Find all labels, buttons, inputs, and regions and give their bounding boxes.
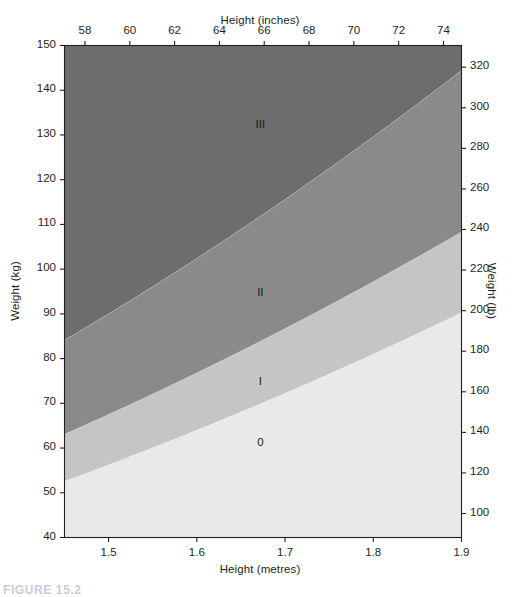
y-right-tick-label-260: 260	[470, 181, 510, 193]
band-label-normal-range: 0	[240, 436, 280, 448]
figure-caption: FIGURE 15.2	[3, 583, 82, 597]
x-top-tick-label-64: 64	[199, 24, 239, 36]
y-tick-label-150: 150	[16, 38, 56, 50]
x-top-tick-label-70: 70	[334, 24, 374, 36]
left-axis-title: Weight (kg)	[9, 231, 21, 351]
y-right-tick-label-180: 180	[470, 343, 510, 355]
y-right-tick-label-300: 300	[470, 100, 510, 112]
y-tick-label-120: 120	[16, 172, 56, 184]
y-tick-label-60: 60	[16, 440, 56, 452]
band-label-obesity-class-1: I	[240, 375, 280, 387]
y-tick-label-70: 70	[16, 395, 56, 407]
right-axis-title: Weight (lb)	[486, 231, 498, 351]
x-top-tick-label-62: 62	[155, 24, 195, 36]
y-right-tick-label-240: 240	[470, 221, 510, 233]
x-top-tick-label-66: 66	[244, 24, 284, 36]
x-top-tick-label-68: 68	[289, 24, 329, 36]
y-tick-label-130: 130	[16, 127, 56, 139]
y-tick-label-80: 80	[16, 351, 56, 363]
y-right-tick-label-220: 220	[470, 262, 510, 274]
x-tick-label-1.8: 1.8	[353, 546, 393, 558]
x-top-tick-label-72: 72	[379, 24, 419, 36]
y-right-tick-label-320: 320	[470, 59, 510, 71]
y-tick-label-40: 40	[16, 530, 56, 542]
band-label-obesity-class-3: III	[240, 118, 280, 130]
y-tick-label-100: 100	[16, 261, 56, 273]
y-right-tick-label-100: 100	[470, 506, 510, 518]
y-right-tick-label-280: 280	[470, 140, 510, 152]
y-tick-label-110: 110	[16, 216, 56, 228]
x-top-tick-label-58: 58	[65, 24, 105, 36]
y-right-tick-label-120: 120	[470, 465, 510, 477]
bottom-axis-title: Height (metres)	[0, 563, 520, 575]
y-tick-label-140: 140	[16, 82, 56, 94]
y-right-tick-label-200: 200	[470, 303, 510, 315]
x-tick-label-1.7: 1.7	[265, 546, 305, 558]
x-tick-label-1.5: 1.5	[89, 546, 129, 558]
y-tick-label-90: 90	[16, 306, 56, 318]
y-tick-label-50: 50	[16, 485, 56, 497]
x-tick-label-1.6: 1.6	[177, 546, 217, 558]
y-right-tick-label-140: 140	[470, 424, 510, 436]
x-tick-label-1.9: 1.9	[442, 546, 482, 558]
x-top-tick-label-74: 74	[424, 24, 464, 36]
band-label-obesity-class-2: II	[240, 286, 280, 298]
y-right-tick-label-160: 160	[470, 384, 510, 396]
x-top-tick-label-60: 60	[110, 24, 150, 36]
